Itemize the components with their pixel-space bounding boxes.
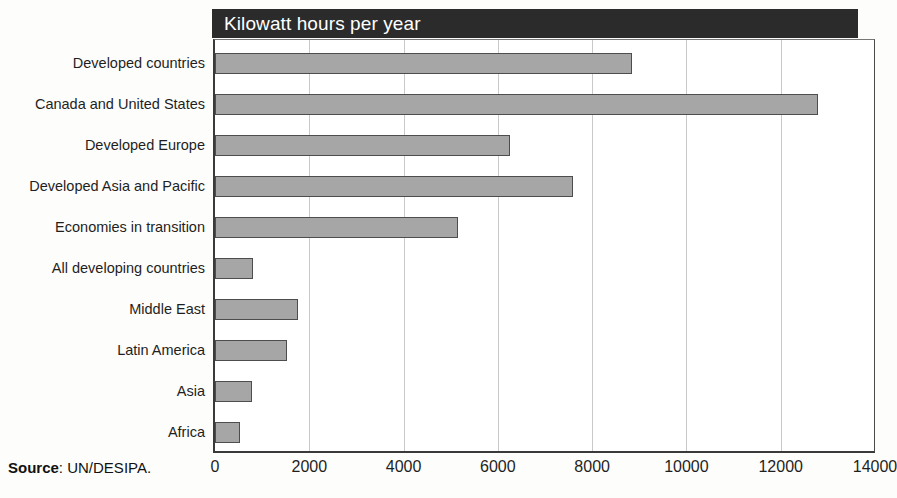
category-label: All developing countries (0, 260, 205, 276)
category-label: Canada and United States (0, 96, 205, 112)
chart-title-banner: Kilowatt hours per year (212, 9, 858, 38)
bar-economies-in-transition (215, 217, 458, 238)
x-tick-label: 8000 (574, 458, 610, 476)
category-label: Middle East (0, 301, 205, 317)
category-label: Economies in transition (0, 219, 205, 235)
x-tick-label: 12000 (758, 458, 803, 476)
bar-africa (215, 422, 240, 443)
bar-canada-and-united-states (215, 94, 818, 115)
bar-latin-america (215, 340, 287, 361)
bar-developed-countries (215, 53, 632, 74)
bars-layer (215, 40, 874, 451)
bar-all-developing-countries (215, 258, 253, 279)
source-value: UN/DESIPA. (67, 459, 151, 476)
chart-title: Kilowatt hours per year (212, 13, 421, 35)
bar-developed-europe (215, 135, 510, 156)
source-note: Source: UN/DESIPA. (8, 459, 151, 476)
plot-area (213, 39, 875, 453)
category-label: Developed Europe (0, 137, 205, 153)
x-tick-label: 10000 (664, 458, 709, 476)
category-label: Africa (0, 424, 205, 440)
x-tick-label: 4000 (386, 458, 422, 476)
bar-asia (215, 381, 252, 402)
x-tick-label: 6000 (480, 458, 516, 476)
bar-middle-east (215, 299, 298, 320)
category-label: Latin America (0, 342, 205, 358)
category-label: Developed countries (0, 55, 205, 71)
x-tick-label: 0 (211, 458, 220, 476)
category-axis-labels: Developed countriesCanada and United Sta… (0, 39, 205, 453)
bar-developed-asia-and-pacific (215, 176, 573, 197)
x-tick-label: 14000 (853, 458, 897, 476)
category-label: Developed Asia and Pacific (0, 178, 205, 194)
source-label: Source (8, 459, 59, 476)
source-separator: : (59, 459, 67, 476)
category-label: Asia (0, 383, 205, 399)
gridline (875, 40, 876, 451)
x-tick-label: 2000 (291, 458, 327, 476)
